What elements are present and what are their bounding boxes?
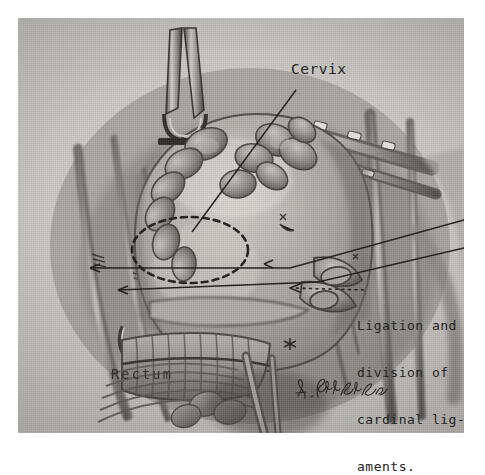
label-rectum: Rectum	[111, 366, 173, 382]
label-ligation-line-3: cardinal lig-	[357, 412, 465, 428]
label-cervix: Cervix	[291, 61, 346, 77]
label-ligation-line-1: Ligation and	[357, 318, 465, 334]
label-ligation-line-4: aments.	[357, 459, 465, 475]
artist-signature: L. Schlossberg	[292, 374, 388, 404]
